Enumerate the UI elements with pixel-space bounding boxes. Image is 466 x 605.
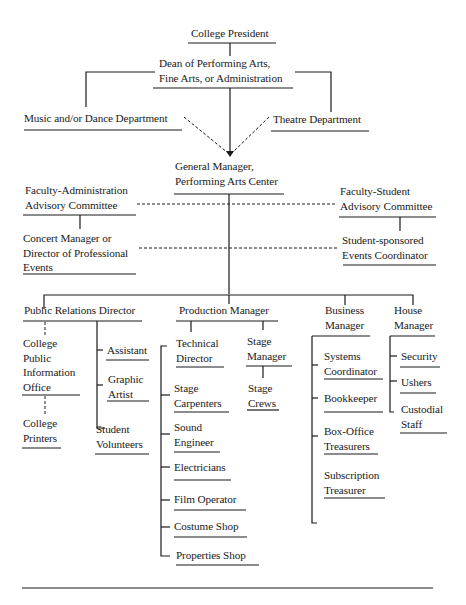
node-dean: Dean of Performing Arts, Fine Arts, or A… <box>159 56 282 85</box>
node-stage-crews: Stage Crews <box>248 381 276 410</box>
node-stage-manager: Stage Manager <box>247 334 286 363</box>
node-general-manager: General Manager, Performing Arts Center <box>175 159 278 188</box>
node-music-dance: Music and/or Dance Department <box>24 111 167 126</box>
node-assistant: Assistant <box>107 343 147 358</box>
node-stage-carpenters: Stage Carpenters <box>174 381 221 410</box>
node-systems-coordinator: Systems Coordinator <box>324 349 377 378</box>
arrowhead-icon <box>226 151 234 157</box>
node-bookkeeper: Bookkeeper <box>324 391 377 406</box>
node-faculty-student-committee: Faculty-Student Advisory Committee <box>340 184 432 213</box>
node-technical-director: Technical Director <box>176 336 218 365</box>
node-production-manager: Production Manager <box>179 303 269 318</box>
node-properties-shop: Properties Shop <box>176 548 246 563</box>
node-custodial-staff: Custodial Staff <box>401 402 443 431</box>
node-house-manager: House Manager <box>394 303 433 332</box>
node-graphic-artist: Graphic Artist <box>108 372 143 401</box>
node-pr-director: Public Relations Director <box>24 303 135 318</box>
node-sound-engineer: Sound Engineer <box>174 420 214 449</box>
node-college-president: College President <box>191 26 269 41</box>
node-ushers: Ushers <box>401 375 431 390</box>
node-box-office-treasurers: Box-Office Treasurers <box>324 424 374 453</box>
node-concert-manager: Concert Manager or Director of Professio… <box>23 231 128 275</box>
node-subscription-treasurer: Subscription Treasurer <box>324 468 379 497</box>
node-college-pio: College Public Information Office <box>23 336 75 394</box>
node-theatre: Theatre Department <box>273 112 361 127</box>
node-electricians: Electricians <box>174 460 226 475</box>
node-security: Security <box>401 349 437 364</box>
node-college-printers: College Printers <box>23 416 57 445</box>
node-student-volunteers: Student Volunteers <box>96 422 143 451</box>
node-costume-shop: Costume Shop <box>174 519 238 534</box>
node-business-manager: Business Manager <box>325 303 364 332</box>
node-faculty-admin-committee: Faculty-Administration Advisory Committe… <box>25 183 128 212</box>
node-film-operator: Film Operator <box>174 492 236 507</box>
node-student-events: Student-sponsored Events Coordinator <box>342 233 428 262</box>
